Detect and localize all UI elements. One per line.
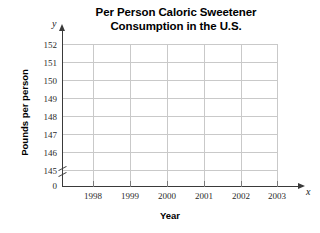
plot-area: [63, 44, 278, 187]
y-tick-label: 145: [31, 166, 57, 176]
gridline-horizontal: [63, 134, 278, 135]
y-tick-label-zero: 0: [31, 181, 57, 191]
gridline-horizontal: [63, 80, 278, 81]
y-tick-label: 150: [31, 76, 57, 86]
y-tick-label: 147: [31, 130, 57, 140]
gridline-vertical: [204, 44, 205, 187]
y-axis-arrow-icon: [59, 24, 65, 31]
gridline-vertical: [277, 44, 278, 187]
x-axis-letter: x: [306, 186, 310, 197]
y-axis-break-icon: [58, 166, 68, 178]
x-tick-label: 2002: [221, 191, 261, 201]
x-axis-line: [62, 186, 300, 187]
chart-container: Per Person Caloric Sweetener Consumption…: [0, 0, 320, 233]
x-axis-arrow-icon: [298, 183, 305, 189]
y-tick-label: 148: [31, 112, 57, 122]
x-axis-title: Year: [120, 210, 220, 221]
gridline-horizontal: [63, 152, 278, 153]
y-axis-title: Pounds per person: [19, 48, 30, 178]
chart-title-line-2: Consumption in the U.S.: [62, 20, 290, 34]
x-tick-mark: [130, 181, 131, 187]
gridline-horizontal: [63, 170, 278, 171]
x-tick-mark: [93, 181, 94, 187]
x-tick-label: 2000: [147, 191, 187, 201]
chart-title: Per Person Caloric Sweetener Consumption…: [62, 6, 290, 33]
y-tick-label: 149: [31, 94, 57, 104]
y-axis-letter: y: [52, 18, 56, 29]
x-tick-label: 1999: [110, 191, 150, 201]
gridline-vertical: [241, 44, 242, 187]
x-tick-label: 1998: [73, 191, 113, 201]
chart-title-line-1: Per Person Caloric Sweetener: [62, 6, 290, 20]
y-tick-label: 151: [31, 58, 57, 68]
y-tick-label: 146: [31, 148, 57, 158]
x-tick-mark: [241, 181, 242, 187]
y-axis-line: [62, 30, 63, 187]
gridline-horizontal: [63, 62, 278, 63]
gridline-horizontal: [63, 116, 278, 117]
gridline-vertical: [167, 44, 168, 187]
x-tick-label: 2003: [257, 191, 297, 201]
gridline-vertical: [93, 44, 94, 187]
gridline-horizontal: [63, 44, 278, 45]
x-tick-mark: [167, 181, 168, 187]
x-tick-label: 2001: [184, 191, 224, 201]
gridline-horizontal: [63, 98, 278, 99]
gridline-vertical: [130, 44, 131, 187]
x-tick-mark: [204, 181, 205, 187]
y-tick-label: 152: [31, 40, 57, 50]
x-tick-mark: [277, 181, 278, 187]
